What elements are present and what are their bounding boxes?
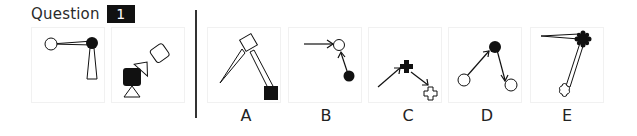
option-a-figure-icon bbox=[208, 28, 282, 104]
section-divider bbox=[195, 10, 197, 118]
question-figure-1-icon bbox=[32, 28, 106, 104]
option-panel-a[interactable] bbox=[207, 27, 281, 103]
option-label-d[interactable]: D bbox=[477, 106, 497, 126]
option-panel-e[interactable] bbox=[530, 27, 604, 103]
option-label-b[interactable]: B bbox=[316, 106, 336, 126]
option-e-figure-icon bbox=[531, 28, 605, 104]
option-b-figure-icon bbox=[289, 28, 363, 104]
option-c-figure-icon bbox=[369, 28, 443, 104]
question-number-badge: 1 bbox=[107, 5, 135, 23]
option-d-figure-icon bbox=[449, 28, 523, 104]
option-panel-b[interactable] bbox=[288, 27, 362, 103]
question-panel-2 bbox=[111, 27, 185, 103]
question-panel-1 bbox=[31, 27, 105, 103]
question-label: Question bbox=[31, 4, 100, 24]
option-label-e[interactable]: E bbox=[557, 106, 577, 126]
option-panel-d[interactable] bbox=[448, 27, 522, 103]
question-header: Question 1 bbox=[31, 4, 135, 24]
option-label-a[interactable]: A bbox=[236, 106, 256, 126]
option-panel-c[interactable] bbox=[368, 27, 442, 103]
option-label-c[interactable]: C bbox=[398, 106, 418, 126]
question-figure-2-icon bbox=[112, 28, 186, 104]
